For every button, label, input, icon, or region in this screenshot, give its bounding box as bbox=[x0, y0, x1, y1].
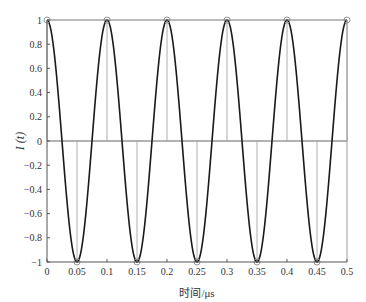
x-tick-label: 0.05 bbox=[68, 266, 86, 277]
y-tick-label: 0.2 bbox=[30, 111, 43, 122]
y-tick-label: 1 bbox=[37, 15, 42, 26]
x-tick-label: 0.4 bbox=[281, 266, 294, 277]
y-tick-label: −1 bbox=[31, 257, 42, 268]
x-tick-label: 0.1 bbox=[101, 266, 114, 277]
x-tick-label: 0.5 bbox=[341, 266, 354, 277]
x-tick-label: 0.2 bbox=[161, 266, 174, 277]
x-axis-label: 时间/μs bbox=[179, 287, 214, 299]
y-tick-label: −0.4 bbox=[24, 184, 42, 195]
axes: 10.80.60.40.20−0.2−0.4−0.6−0.8−100.050.1… bbox=[24, 15, 353, 278]
y-tick-label: 0 bbox=[37, 136, 42, 147]
y-tick-label: −0.6 bbox=[24, 208, 42, 219]
x-tick-label: 0.45 bbox=[308, 266, 326, 277]
y-tick-label: −0.8 bbox=[24, 232, 42, 243]
x-tick-label: 0.35 bbox=[248, 266, 266, 277]
y-axis-label: I (t) bbox=[13, 132, 27, 151]
chart: 10.80.60.40.20−0.2−0.4−0.6−0.8−100.050.1… bbox=[0, 0, 366, 302]
x-tick-label: 0.25 bbox=[188, 266, 206, 277]
y-tick-label: 0.6 bbox=[30, 63, 43, 74]
plot-area bbox=[44, 17, 350, 265]
x-tick-label: 0 bbox=[45, 266, 50, 277]
x-tick-label: 0.15 bbox=[128, 266, 146, 277]
y-tick-label: 0.4 bbox=[30, 87, 43, 98]
y-tick-label: 0.8 bbox=[30, 39, 43, 50]
x-tick-label: 0.3 bbox=[221, 266, 234, 277]
y-tick-label: −0.2 bbox=[24, 160, 42, 171]
